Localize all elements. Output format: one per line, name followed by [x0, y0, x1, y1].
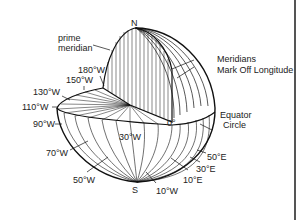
prime-meridian-label-1: prime	[58, 33, 81, 43]
equator-label-1: Equator	[220, 110, 252, 120]
meridians-label-2: Mark Off Longitude	[217, 65, 293, 75]
meridians-label-1: Meridians	[217, 54, 257, 64]
zero-degree-label: 0°	[167, 118, 176, 128]
longitude-150w: 150°W	[66, 75, 94, 85]
longitude-10w: 10°W	[156, 186, 179, 196]
longitude-110w: 110°W	[22, 102, 49, 112]
equator-label-2: Circle	[223, 120, 246, 130]
longitude-130w: 130°W	[33, 87, 61, 97]
south-pole-label: S	[132, 185, 138, 195]
longitude-10e: 10°E	[183, 175, 203, 185]
longitude-70w: 70°W	[46, 148, 69, 158]
north-pole-label: N	[131, 18, 138, 28]
equator-plane	[57, 88, 172, 125]
prime-meridian-label-2: meridian	[58, 43, 93, 53]
longitude-180w: 180°W	[78, 65, 106, 75]
southern-hemisphere-outline	[57, 108, 137, 182]
frame-edge-divider	[294, 0, 296, 220]
longitude-30w: 30°W	[119, 132, 142, 142]
longitude-90w: 90°W	[33, 119, 56, 129]
sphere-outline	[135, 28, 215, 182]
longitude-50e: 50°E	[207, 152, 227, 162]
globe-meridians-diagram: N S prime meridian Meridians Mark Off Lo…	[0, 0, 305, 220]
longitude-50w: 50°W	[73, 175, 96, 185]
longitude-30e: 30°E	[196, 164, 216, 174]
